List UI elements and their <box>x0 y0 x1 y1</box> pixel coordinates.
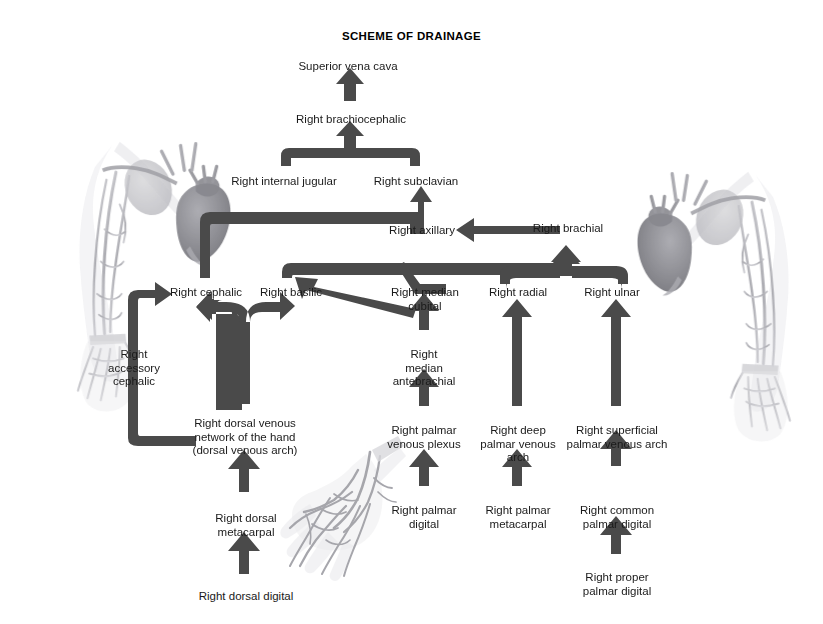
arrow-brachial-to-axillary <box>456 218 560 242</box>
arrow-median-cubital-to-basilic <box>295 277 416 318</box>
arrow-deep-arch-to-radial <box>502 299 532 406</box>
arrow-palmar-digital-to-plexus <box>409 449 439 486</box>
arrow-dorsal-metacarpal-to-network <box>228 450 260 492</box>
arrow-dorsal-digital-to-metacarpal <box>228 532 260 574</box>
drainage-scheme-figure: SCHEME OF DRAINAGE <box>0 0 823 624</box>
arrow-axillary-to-subclavian <box>410 186 432 234</box>
arrow-network-t-full <box>197 292 295 404</box>
arrow-proper-palmar-to-common-palmar <box>600 516 632 554</box>
arrow-jugular-subclavian-merge <box>281 121 420 166</box>
connector-network-to-accessory-cephalic <box>128 428 196 446</box>
arrow-accessory-cephalic-to-cephalic <box>128 282 172 434</box>
arrow-palmar-metacarpal-to-deep-arch <box>502 449 532 486</box>
arrow-palmar-plexus-to-antebrachial <box>409 369 439 406</box>
arrow-superficial-arch-to-ulnar <box>601 299 631 406</box>
drainage-flow-diagram <box>0 0 823 624</box>
dorsal-hand-veins-illustration <box>280 436 406 581</box>
arrow-brachiocephalic-to-svc <box>336 68 364 101</box>
right-arm-veins-illustration <box>637 172 790 442</box>
arrow-common-palmar-to-superficial-arch <box>600 430 632 466</box>
